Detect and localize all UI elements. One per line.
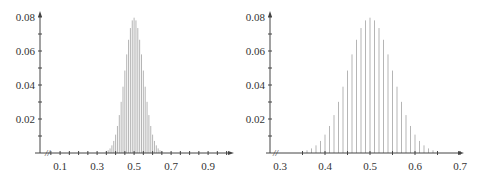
right-y-label: 0.06 — [246, 45, 266, 57]
left-y-arrow-icon — [38, 11, 42, 17]
left-y-label: 0.08 — [16, 11, 36, 23]
charts-canvas: // 0.08 0.06 0.04 0.02 0.1 0.3 0.5 0.7 0… — [0, 0, 479, 180]
left-chart: // 0.08 0.06 0.04 0.02 0.1 0.3 0.5 0.7 0… — [16, 11, 234, 172]
right-y-arrow-icon — [268, 11, 272, 17]
left-x-label: 0.7 — [164, 160, 178, 172]
left-x-arrow-icon — [228, 151, 234, 155]
right-chart: // 0.08 0.06 0.04 0.02 0.3 0.4 0.5 0.6 0… — [246, 11, 468, 172]
left-x-label: 0.9 — [201, 160, 215, 172]
right-bars — [303, 18, 438, 153]
left-x-label: 0.1 — [53, 160, 67, 172]
right-x-label: 0.7 — [453, 160, 467, 172]
right-y-label: 0.02 — [246, 113, 265, 125]
right-x-label: 0.3 — [273, 160, 287, 172]
left-y-label: 0.04 — [16, 79, 36, 91]
right-x-arrow-icon — [458, 151, 464, 155]
left-y-label: 0.02 — [16, 113, 35, 125]
left-x-label: 0.3 — [90, 160, 104, 172]
left-y-label: 0.06 — [16, 45, 36, 57]
right-y-label: 0.08 — [246, 11, 266, 23]
left-bars — [106, 18, 162, 153]
right-y-label: 0.04 — [246, 79, 266, 91]
right-x-label: 0.4 — [318, 160, 332, 172]
right-x-label: 0.6 — [408, 160, 422, 172]
left-x-label: 0.5 — [127, 160, 141, 172]
right-x-label: 0.5 — [363, 160, 377, 172]
